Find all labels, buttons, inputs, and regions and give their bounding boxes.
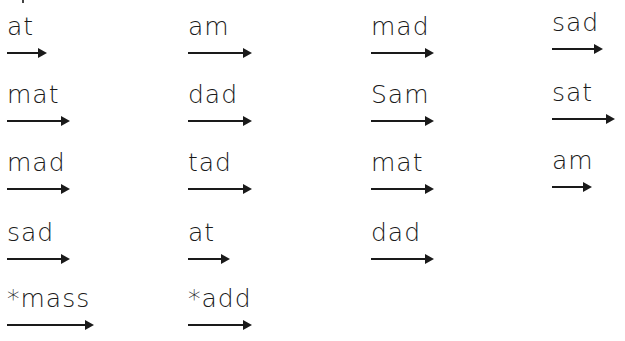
right-arrow-icon [188,52,250,54]
word-label: sad [7,220,54,246]
word-label: sat [552,80,593,106]
right-arrow-icon [371,258,432,260]
word-label: at [7,14,34,40]
right-arrow-icon [371,188,432,190]
right-arrow-icon [188,188,250,190]
right-arrow-icon [552,186,590,188]
word-label: am [552,148,594,174]
word-label: at [188,220,215,246]
word-label: dad [188,82,238,108]
word-label: sad [552,10,599,36]
word-label: tad [188,150,232,176]
right-arrow-icon [371,120,432,122]
word-label: dad [371,220,421,246]
right-arrow-icon [7,258,68,260]
word-label: *add [188,286,252,312]
word-label: mad [7,150,66,176]
right-arrow-icon [7,188,68,190]
word-label: mad [371,14,430,40]
word-label: Sam [371,82,430,108]
right-arrow-icon [188,324,250,326]
right-arrow-icon [7,52,45,54]
cropped-heading-fragment [22,0,24,3]
word-label: mat [7,82,59,108]
word-label: *mass [7,286,90,312]
right-arrow-icon [7,324,92,326]
right-arrow-icon [371,52,432,54]
right-arrow-icon [188,258,228,260]
right-arrow-icon [552,48,601,50]
right-arrow-icon [552,118,613,120]
right-arrow-icon [188,120,250,122]
right-arrow-icon [7,120,68,122]
word-label: mat [371,150,423,176]
word-label: am [188,14,230,40]
